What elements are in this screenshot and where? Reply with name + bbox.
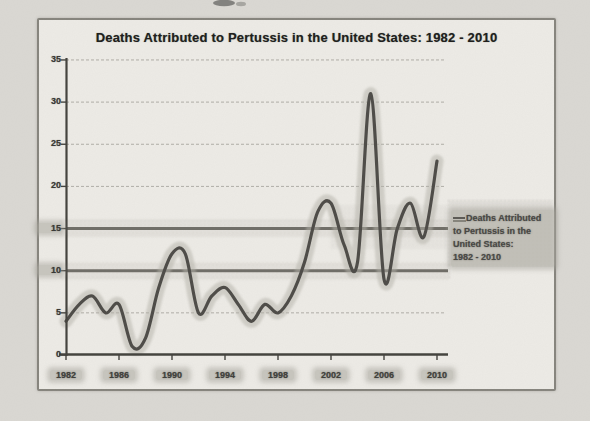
legend-line-1: Deaths Attributed <box>453 212 554 225</box>
legend-text-4: 1982 - 2010 <box>453 251 554 264</box>
x-tick-label: 1998 <box>262 370 294 380</box>
y-tick-label: 30 <box>37 96 61 106</box>
x-tick-label: 1986 <box>103 370 135 380</box>
legend-text-2: to Pertussis in the <box>453 225 554 238</box>
x-tick-label: 2006 <box>368 370 400 380</box>
x-tick-label: 1990 <box>156 370 188 380</box>
scanned-page: Deaths Attributed to Pertussis in the Un… <box>0 0 590 421</box>
x-tick-label: 2002 <box>315 370 347 380</box>
y-tick-label: 10 <box>37 265 61 275</box>
y-tick-label: 35 <box>37 54 61 64</box>
y-tick-label: 15 <box>37 223 61 233</box>
legend-text-3: United States: <box>453 238 554 251</box>
y-tick-label: 20 <box>37 180 61 190</box>
legend-text-1: Deaths Attributed <box>466 213 541 223</box>
y-tick-label: 0 <box>37 349 61 359</box>
chart-title: Deaths Attributed to Pertussis in the Un… <box>37 30 556 45</box>
y-tick-label: 5 <box>37 307 61 317</box>
x-tick-label: 1994 <box>209 370 241 380</box>
legend: Deaths Attributed to Pertussis in the Un… <box>451 210 555 267</box>
x-tick-label: 1982 <box>50 370 82 380</box>
legend-series-line-icon <box>453 217 465 219</box>
y-tick-label: 25 <box>37 138 61 148</box>
x-tick-label: 2010 <box>421 370 453 380</box>
